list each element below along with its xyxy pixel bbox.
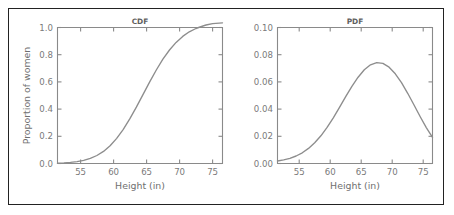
- cdf-curve: [58, 23, 223, 163]
- pdf-title: PDF: [347, 17, 364, 26]
- pdf-xtick-label-0: 55: [294, 167, 305, 177]
- cdf-svg: 0.0 0.2 0.4 0.6 0.8 1.0 55 60 65 70 75 H…: [0, 0, 232, 215]
- pdf-svg: 0.00 0.02 0.04 0.06 0.08 0.10 55 60 65 7…: [222, 0, 454, 215]
- pdf-ytick-label-1: 0.02: [254, 131, 273, 141]
- chart-panel-cdf: 0.0 0.2 0.4 0.6 0.8 1.0 55 60 65 70 75 H…: [0, 0, 232, 215]
- cdf-ylabel: Proportion of women: [21, 47, 32, 145]
- pdf-ytick-label-3: 0.06: [254, 77, 273, 87]
- cdf-title: CDF: [132, 17, 149, 26]
- cdf-x-ticks: [81, 28, 213, 164]
- cdf-xtick-label-3: 70: [174, 167, 185, 177]
- pdf-xtick-label-2: 65: [356, 167, 367, 177]
- pdf-xtick-label-3: 70: [387, 167, 398, 177]
- pdf-ytick-label-5: 0.10: [254, 23, 273, 33]
- cdf-ytick-label-4: 0.8: [39, 50, 53, 60]
- pdf-xlabel: Height (in): [330, 180, 380, 191]
- pdf-x-ticks: [299, 28, 423, 164]
- cdf-xtick-label-4: 75: [207, 167, 218, 177]
- pdf-ytick-label-4: 0.08: [254, 50, 273, 60]
- pdf-ytick-label-0: 0.00: [254, 159, 273, 169]
- cdf-ytick-label-2: 0.4: [39, 104, 53, 114]
- cdf-ytick-label-3: 0.6: [39, 77, 53, 87]
- cdf-xtick-label-0: 55: [75, 167, 86, 177]
- cdf-xlabel: Height (in): [115, 180, 165, 191]
- figure-root: 0.0 0.2 0.4 0.6 0.8 1.0 55 60 65 70 75 H…: [0, 0, 454, 215]
- pdf-xtick-label-4: 75: [418, 167, 429, 177]
- cdf-y-ticks: [58, 28, 223, 164]
- cdf-xtick-label-1: 60: [108, 167, 119, 177]
- cdf-xtick-label-2: 65: [141, 167, 152, 177]
- pdf-xtick-label-1: 60: [325, 167, 336, 177]
- cdf-ytick-label-1: 0.2: [39, 131, 53, 141]
- chart-panel-pdf: 0.00 0.02 0.04 0.06 0.08 0.10 55 60 65 7…: [222, 0, 454, 215]
- pdf-curve: [278, 63, 433, 161]
- cdf-ytick-label-0: 0.0: [39, 159, 53, 169]
- pdf-ytick-label-2: 0.04: [254, 104, 273, 114]
- cdf-plot-frame: [58, 28, 223, 164]
- cdf-ytick-label-5: 1.0: [39, 23, 53, 33]
